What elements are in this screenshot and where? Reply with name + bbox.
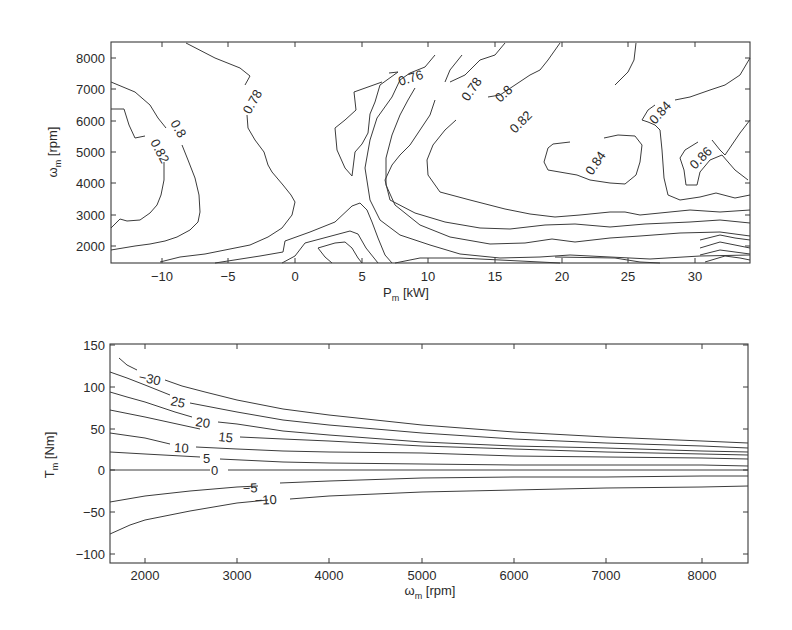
y-tick-label: 4000 [76, 176, 105, 191]
contour-label-5: 5 [203, 451, 210, 466]
x-tick-label: 4000 [315, 568, 344, 583]
top-x-tick-labels: −10 −5 0 5 10 15 20 25 30 [151, 269, 702, 284]
contour-label-0-8-mid: 0.8 [492, 82, 515, 105]
bottom-x-tick-labels: 2000 3000 4000 5000 6000 7000 8000 [131, 568, 717, 583]
contour-label-0-78-mid: 0.78 [458, 74, 485, 103]
x-tick-label: 20 [555, 269, 569, 284]
contour-label-10: 10 [174, 440, 189, 456]
contour-label-15: 15 [218, 429, 234, 445]
contour-label-20: 20 [195, 414, 211, 431]
y-tick-label: 100 [83, 380, 105, 395]
x-tick-label: 7000 [592, 568, 621, 583]
y-tick-label: 5000 [76, 145, 105, 160]
y-tick-label: −100 [76, 547, 105, 562]
top-efficiency-contour-plot: 0.76 0.78 0.78 0.8 0.8 0.82 0.82 0.84 0.… [45, 42, 750, 303]
y-tick-label: 7000 [76, 82, 105, 97]
contour-label-0-78-left: 0.78 [240, 87, 266, 116]
bottom-torque-contour-plot: −30 25 20 15 10 5 0 −5 −10 2000 3000 400… [42, 338, 748, 601]
contour-label-0-86: 0.86 [687, 144, 716, 173]
y-tick-label: 3000 [76, 208, 105, 223]
x-tick-label: 2000 [131, 568, 160, 583]
bottom-contour-lines [110, 358, 748, 534]
contour-30 [119, 358, 748, 443]
x-tick-label: 3000 [223, 568, 252, 583]
contour-label-0-82-left: 0.82 [147, 136, 172, 165]
y-tick-label: −50 [83, 505, 105, 520]
contour-label-0-8-left: 0.8 [167, 117, 189, 140]
bottom-y-tick-labels: 150 100 50 0 −50 −100 [76, 338, 105, 562]
top-x-ticks [162, 42, 695, 263]
top-contour-lines [111, 43, 750, 263]
contour-label-30: −30 [137, 369, 162, 388]
x-tick-label: 5000 [408, 568, 437, 583]
bottom-x-axis-label: ωm [rpm] [405, 583, 456, 601]
x-tick-label: 30 [688, 269, 702, 284]
contour-label-0-82-mid: 0.82 [507, 108, 536, 137]
x-tick-label: 15 [488, 269, 502, 284]
top-x-axis-label: Pm [kW] [383, 285, 429, 303]
x-tick-label: 25 [621, 269, 635, 284]
contour-label-0-76: 0.76 [396, 67, 425, 89]
bottom-y-axis-label: Tm [Nm] [42, 432, 60, 479]
contour-minus5 [110, 476, 748, 502]
y-tick-label: 150 [83, 338, 105, 353]
figure: 0.76 0.78 0.78 0.8 0.8 0.82 0.82 0.84 0.… [0, 0, 792, 630]
y-tick-label: 6000 [76, 114, 105, 129]
contour-label-0: 0 [211, 463, 218, 478]
x-tick-label: −10 [151, 269, 173, 284]
y-tick-label: 2000 [76, 239, 105, 254]
contour-25 [110, 372, 748, 448]
y-tick-label: 50 [91, 422, 105, 437]
y-tick-label: 8000 [76, 51, 105, 66]
contour-minus10 [110, 486, 748, 534]
top-y-tick-labels: 8000 7000 6000 5000 4000 3000 2000 [76, 51, 105, 254]
contour-label-minus10: −10 [254, 492, 277, 508]
x-tick-label: 5 [358, 269, 365, 284]
x-tick-label: 10 [421, 269, 435, 284]
x-tick-label: 0 [291, 269, 298, 284]
top-contour-labels: 0.76 0.78 0.78 0.8 0.8 0.82 0.82 0.84 0.… [147, 67, 715, 178]
x-tick-label: 8000 [688, 568, 717, 583]
y-tick-label: 0 [98, 463, 105, 478]
contour-label-0-84-island: 0.84 [582, 148, 609, 177]
x-tick-label: 6000 [500, 568, 529, 583]
top-y-axis-label: ωm [rpm] [45, 127, 63, 178]
x-tick-label: −5 [221, 269, 236, 284]
contour-label-25: 25 [169, 393, 186, 411]
